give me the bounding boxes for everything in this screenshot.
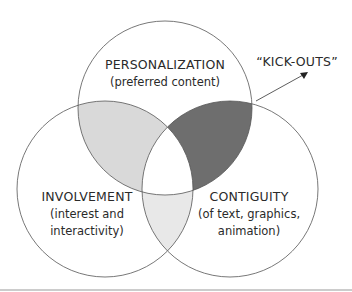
label-contiguity-subtitle-2: animation) xyxy=(218,224,280,238)
label-kick-outs: “KICK-OUTS” xyxy=(256,54,338,69)
label-personalization-title: PERSONALIZATION xyxy=(105,57,225,72)
label-contiguity-title: CONTIGUITY xyxy=(209,189,288,204)
label-contiguity-subtitle-1: (of text, graphics, xyxy=(198,207,300,221)
label-involvement-subtitle-2: interactivity) xyxy=(50,224,124,238)
arrow-head-icon xyxy=(300,72,308,79)
label-involvement-subtitle-1: (interest and xyxy=(50,207,124,221)
venn-diagram: PERSONALIZATION (preferred content) INVO… xyxy=(0,0,352,292)
label-personalization-subtitle: (preferred content) xyxy=(110,75,220,89)
arrow-line xyxy=(256,75,303,101)
label-involvement-title: INVOLVEMENT xyxy=(41,189,132,204)
